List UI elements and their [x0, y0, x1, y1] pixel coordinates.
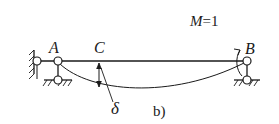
hinge-a-ground: [54, 76, 62, 84]
hinge-wall: [33, 57, 41, 65]
label-a: A: [49, 40, 59, 56]
hinge-a: [54, 57, 62, 65]
label-c: C: [94, 40, 105, 56]
moment-arrow-icon: [234, 49, 242, 76]
deflection-curve: [60, 63, 244, 88]
caption: b): [153, 104, 166, 119]
moment-symbol: M: [190, 13, 203, 29]
label-b: B: [245, 41, 255, 57]
label-delta: δ: [111, 100, 119, 117]
beam-diagram: [0, 0, 279, 124]
hinge-b: [243, 57, 251, 65]
delta-dimension: [97, 63, 114, 102]
moment-value: =1: [203, 13, 219, 29]
label-moment: M=1: [190, 14, 218, 29]
hinge-b-ground: [243, 76, 251, 84]
